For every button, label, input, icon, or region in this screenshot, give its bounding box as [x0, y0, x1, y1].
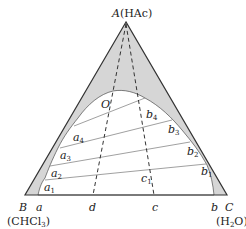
vertex-C-letter: C	[225, 201, 234, 214]
point-b: b	[211, 201, 218, 214]
vertex-A-compound: (HAc)	[120, 7, 152, 20]
vertex-B-letter: B	[18, 201, 27, 214]
svg-text:(H2O): (H2O)	[216, 215, 246, 229]
svg-text:(CHCl3): (CHCl3)	[7, 215, 50, 229]
point-d: d	[89, 201, 96, 214]
point-c: c	[152, 201, 158, 214]
vertex-C-compound: (H	[216, 215, 230, 228]
svg-text:A(HAc): A(HAc)	[111, 7, 152, 20]
vertex-A-letter: A	[111, 7, 120, 20]
point-a: a	[36, 201, 43, 214]
vertex-B-compound: (CHCl	[7, 215, 42, 228]
point-O: O	[101, 98, 110, 111]
ternary-diagram: A(HAc) B (CHCl3) C (H2O) a d c b O c1 a1…	[0, 0, 246, 229]
